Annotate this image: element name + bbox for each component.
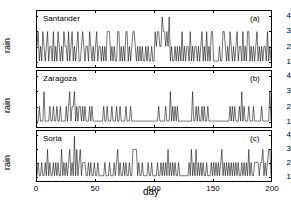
x-tick-mark [95,11,96,13]
series-line-santander [37,17,271,61]
x-tick-mark [36,179,37,181]
x-tick-mark [36,11,37,13]
y-tick-label-c-3: 3 [261,145,291,153]
x-tick-mark [95,125,96,127]
x-tick-mark [95,179,96,181]
y-tick-label-a-4: 4 [261,12,291,20]
x-tick-mark [271,65,272,67]
x-tick-mark [36,131,37,133]
y-tick-mark [269,16,271,17]
y-tick-mark [269,62,271,63]
y-axis-label-a: rain [2,38,12,53]
panel-label-soria: Soria [42,134,63,143]
x-tick-label-50: 50 [83,184,107,193]
y-tick-label-b-3: 3 [261,87,291,95]
x-tick-mark [36,125,37,127]
x-tick-label-200: 200 [260,184,284,193]
panel-soria [36,130,272,182]
y-tick-mark [36,31,38,32]
x-tick-mark [213,65,214,67]
x-tick-mark [95,65,96,67]
y-tick-mark [269,47,271,48]
x-tick-mark [95,131,96,133]
x-tick-mark [154,71,155,73]
x-tick-mark [154,179,155,181]
x-tick-mark [154,131,155,133]
y-tick-label-c-1: 1 [261,173,291,181]
y-tick-label-b-4: 4 [261,72,291,80]
y-tick-mark [269,122,271,123]
series-line-zaragoza [37,92,271,121]
y-tick-mark [269,107,271,108]
panel-tag-c: (c) [249,134,260,143]
x-tick-label-150: 150 [201,184,225,193]
y-tick-mark [36,149,38,150]
y-tick-mark [36,16,38,17]
y-axis-label-c: rain [2,155,12,170]
x-tick-mark [271,179,272,181]
y-tick-label-b-1: 1 [261,118,291,126]
y-tick-mark [36,47,38,48]
y-tick-mark [269,135,271,136]
y-tick-mark [36,91,38,92]
y-tick-mark [269,149,271,150]
x-tick-mark [213,71,214,73]
y-tick-label-a-2: 2 [261,43,291,51]
x-tick-mark [271,11,272,13]
y-tick-mark [36,135,38,136]
x-tick-mark [213,11,214,13]
rainfall-figure: Santander (a) rain Zaragoza (b) rain Sor… [0,0,291,201]
x-tick-mark [154,11,155,13]
x-tick-mark [271,125,272,127]
x-tick-label-0: 0 [24,184,48,193]
x-tick-mark [36,65,37,67]
y-axis-label-b: rain [2,98,12,113]
series-line-soria [37,136,271,175]
x-tick-mark [213,125,214,127]
y-tick-mark [36,163,38,164]
y-tick-mark [269,177,271,178]
y-tick-label-a-1: 1 [261,58,291,66]
x-tick-mark [213,179,214,181]
y-tick-label-a-3: 3 [261,27,291,35]
y-tick-label-b-2: 2 [261,103,291,111]
panel-soria-plot [37,131,271,181]
y-tick-mark [36,62,38,63]
y-tick-mark [269,163,271,164]
y-tick-mark [269,91,271,92]
x-tick-mark [271,71,272,73]
y-tick-mark [36,107,38,108]
x-axis-label: day [143,186,159,197]
y-tick-mark [36,177,38,178]
x-tick-mark [154,65,155,67]
y-tick-mark [269,76,271,77]
y-tick-mark [269,31,271,32]
y-tick-mark [36,76,38,77]
y-tick-label-c-2: 2 [261,159,291,167]
y-tick-mark [36,122,38,123]
x-tick-mark [213,131,214,133]
panel-label-zaragoza: Zaragoza [42,74,78,83]
panel-tag-a: (a) [249,14,261,23]
panel-tag-b: (b) [249,74,261,83]
x-tick-mark [271,131,272,133]
x-tick-mark [154,125,155,127]
x-tick-mark [95,71,96,73]
panel-label-santander: Santander [42,14,81,23]
y-tick-label-c-4: 4 [261,131,291,139]
x-tick-mark [36,71,37,73]
